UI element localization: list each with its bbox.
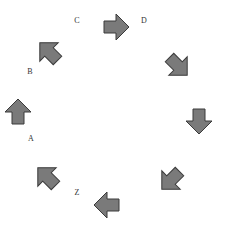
arrow-right-icon [101,12,131,42]
label-d: D [141,17,147,25]
label-z: Z [75,189,80,197]
label-a: A [28,135,34,143]
label-b: B [27,68,32,76]
arrow-up-left-icon [34,37,64,67]
arrow-down-left-icon [156,165,186,195]
arrow-down-icon [184,106,214,136]
arrow-up-icon [3,97,33,127]
arrow-circle-diagram: C D B A Z [0,0,226,230]
arrow-down-right-icon [163,51,193,81]
label-c: C [74,17,79,25]
arrow-left-icon [92,190,122,220]
arrow-up-left-icon-2 [32,162,62,192]
